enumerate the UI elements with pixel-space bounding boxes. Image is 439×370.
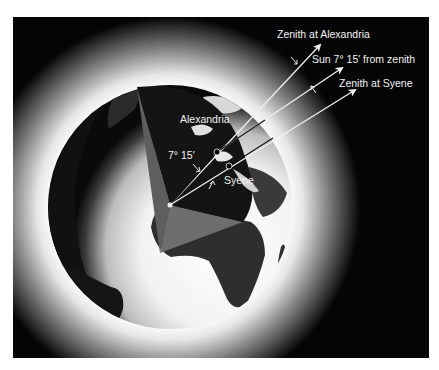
label-syene: Syene	[224, 175, 254, 186]
earth-center-point	[168, 203, 173, 208]
diagram-canvas	[13, 17, 429, 358]
alexandria-point	[214, 149, 220, 155]
label-zenith-alexandria: Zenith at Alexandria	[277, 29, 370, 40]
syene-point	[226, 163, 232, 169]
label-sun-angle: Sun 7° 15′ from zenith	[312, 54, 415, 65]
label-angle: 7° 15′	[168, 150, 195, 161]
label-zenith-syene: Zenith at Syene	[339, 78, 413, 89]
label-alexandria: Alexandria	[180, 114, 230, 125]
eratosthenes-diagram: Zenith at Alexandria Sun 7° 15′ from zen…	[13, 17, 429, 358]
